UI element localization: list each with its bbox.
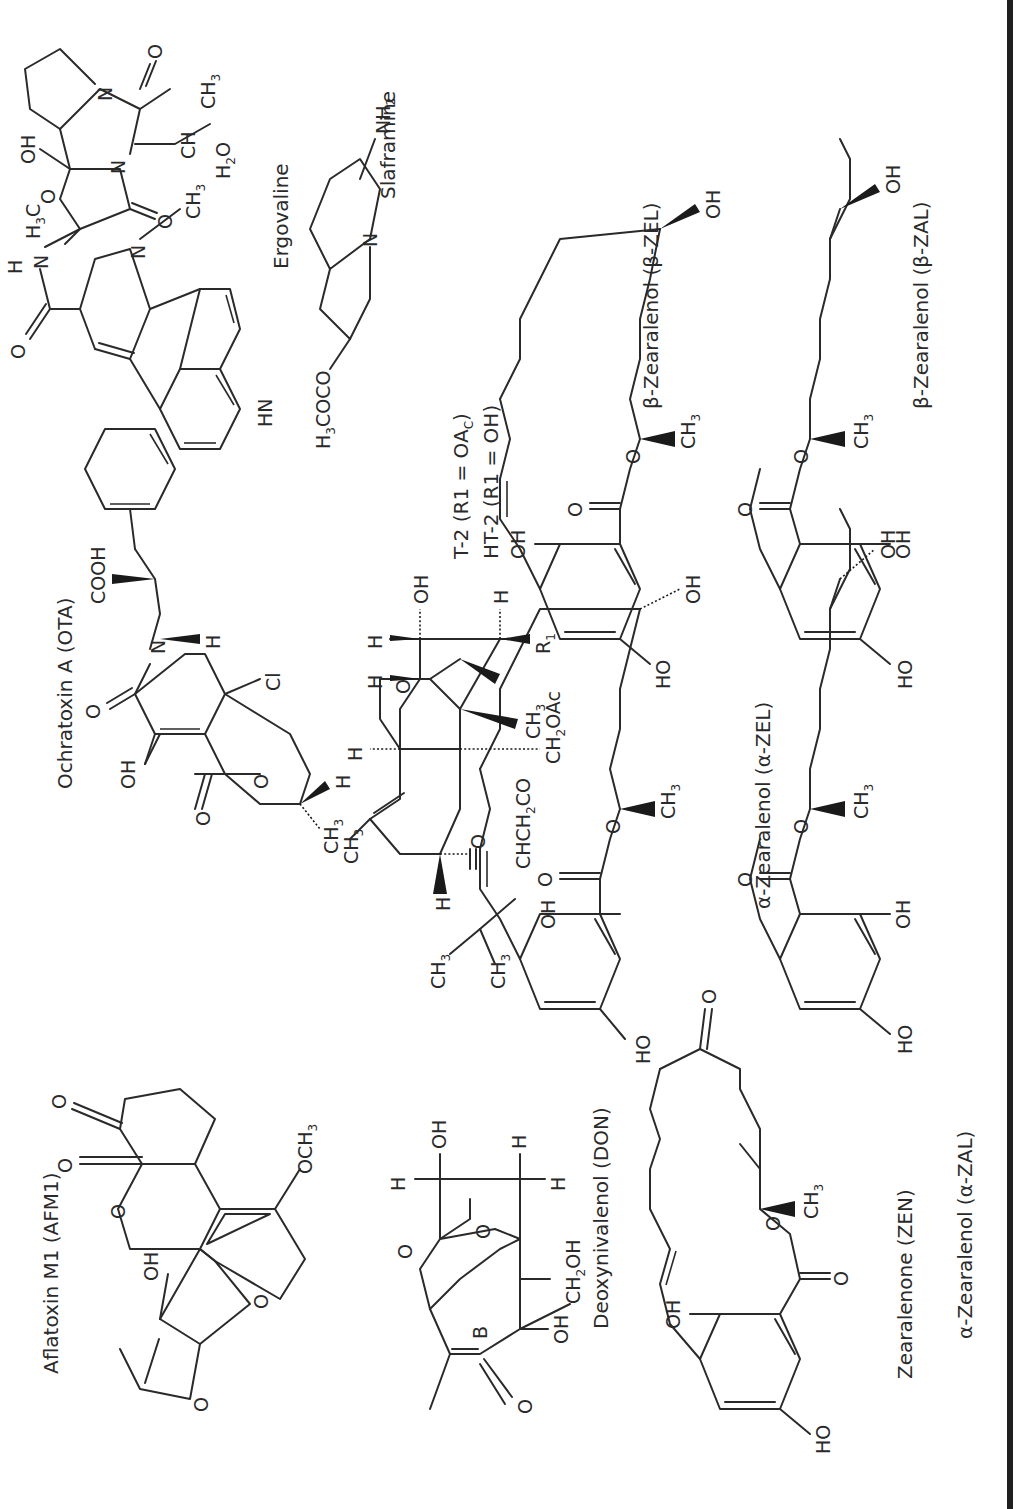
structures-canvas: Aflatoxin M1 (AFM1) O OH O O O O OCH3 De… (0, 0, 1025, 1509)
svg-text:H: H (364, 635, 386, 649)
svg-text:H: H (490, 590, 512, 604)
svg-text:OCH3: OCH3 (294, 1124, 320, 1174)
don-label: Deoxynivalenol (DON) (589, 1107, 613, 1329)
svg-text:B: B (469, 1326, 491, 1339)
svg-text:OH: OH (892, 900, 914, 929)
svg-text:OH: OH (117, 760, 139, 789)
ergovaline-label: Ergovaline (269, 163, 293, 269)
svg-text:OH: OH (428, 1120, 450, 1149)
svg-text:O: O (830, 1271, 852, 1286)
svg-text:CH3: CH3 (340, 829, 366, 864)
svg-text:HO: HO (632, 1035, 654, 1064)
deoxynivalenol-structure: Deoxynivalenol (DON) B O OH CH2OH O O H … (387, 1107, 613, 1414)
svg-text:CH2OH: CH2OH (562, 1240, 588, 1304)
svg-text:O: O (144, 44, 166, 59)
svg-text:O: O (48, 1094, 70, 1109)
ochratoxin-a-structure: Ochratoxin A (OTA) COOH N H O OH O O CH3… (53, 429, 354, 854)
svg-text:O: O (622, 449, 644, 464)
svg-text:O: O (82, 704, 104, 719)
svg-text:CH3: CH3 (427, 954, 453, 989)
svg-text:O: O (790, 449, 812, 464)
alpha-zal-label: α-Zearalenol (α-ZAL) (953, 1131, 977, 1339)
aflatoxin-m1-structure: Aflatoxin M1 (AFM1) O OH O O O O OCH3 (39, 1089, 320, 1412)
figure-frame: Aflatoxin M1 (AFM1) O OH O O O O OCH3 De… (0, 0, 1025, 1509)
svg-text:N: N (147, 640, 169, 654)
ergovaline-structure: Ergovaline HN N CH3 O N H O H3C O N (4, 44, 293, 449)
svg-text:O: O (250, 1294, 272, 1309)
svg-text:CH3: CH3 (657, 784, 683, 819)
svg-text:O: O (190, 1397, 212, 1412)
svg-text:O: O (514, 1399, 536, 1414)
svg-text:O: O (54, 1158, 76, 1173)
svg-text:CH3: CH3 (677, 414, 703, 449)
svg-text:OH: OH (550, 1315, 572, 1344)
svg-text:O: O (250, 774, 272, 789)
beta-zal-structure: β-Zearalenol (β-ZAL) HO OH O O CH3 OH (734, 139, 933, 689)
svg-text:H: H (202, 635, 224, 649)
svg-text:H3C: H3C (22, 204, 48, 239)
svg-text:HO: HO (894, 660, 916, 689)
svg-text:O: O (37, 189, 59, 204)
svg-text:N: N (127, 245, 149, 259)
svg-text:O: O (154, 214, 176, 229)
svg-text:O: O (734, 502, 756, 517)
svg-text:O: O (392, 679, 414, 694)
svg-text:O: O (192, 811, 214, 826)
svg-text:O: O (107, 1204, 129, 1219)
svg-text:CHCH2CO: CHCH2CO (512, 778, 538, 869)
svg-text:CH: CH (177, 131, 199, 159)
svg-text:HO: HO (652, 660, 674, 689)
svg-text:O: O (467, 834, 489, 849)
svg-text:CH2OAc: CH2OAc (542, 691, 568, 764)
svg-text:OH: OH (682, 575, 704, 604)
svg-text:OH: OH (882, 165, 904, 194)
beta-zel-structure: β-Zearalenol (β-ZEL) HO OH O O CH3 OH (500, 190, 724, 689)
svg-text:CH3: CH3 (850, 414, 876, 449)
alpha-zal-structure: α-Zearalenol (α-ZAL) HO OH O O CH3 OH (734, 509, 977, 1339)
svg-text:H: H (387, 1177, 409, 1191)
rotated-page: Aflatoxin M1 (AFM1) O OH O O O O OCH3 De… (0, 0, 1025, 1509)
svg-text:H: H (332, 775, 354, 789)
svg-text:Cl: Cl (262, 672, 284, 691)
svg-text:OH: OH (702, 190, 724, 219)
svg-text:N: N (359, 233, 381, 247)
beta-zal-label: β-Zearalenol (β-ZAL) (909, 201, 933, 409)
svg-text:H3COCO: H3COCO (312, 371, 338, 449)
svg-text:O: O (602, 819, 624, 834)
svg-text:HO: HO (812, 1425, 834, 1454)
svg-text:CH3: CH3 (197, 74, 223, 109)
svg-text:O: O (472, 1224, 494, 1239)
ochratoxin-a-label: Ochratoxin A (OTA) (53, 597, 77, 789)
svg-text:O: O (534, 872, 556, 887)
t2-label: T-2 (R1 = OAC) (449, 413, 476, 560)
svg-text:O: O (7, 344, 29, 359)
svg-text:OH: OH (140, 1252, 162, 1281)
svg-text:N: N (107, 160, 129, 174)
svg-text:O: O (698, 989, 720, 1004)
svg-text:N: N (94, 87, 116, 101)
svg-text:HN: HN (254, 399, 276, 428)
svg-text:O: O (564, 502, 586, 517)
svg-text:H: H (344, 747, 366, 761)
svg-text:H: H (547, 1177, 569, 1191)
svg-text:H: H (432, 897, 454, 911)
svg-text:N: N (30, 255, 52, 269)
aflatoxin-m1-label: Aflatoxin M1 (AFM1) (39, 1172, 63, 1374)
svg-text:O: O (394, 1244, 416, 1259)
t2-toxin-structure: T-2 (R1 = OAC) HT-2 (R1 = OH) CH3 H O CH… (340, 405, 568, 989)
svg-text:OH: OH (410, 575, 432, 604)
svg-text:OH: OH (17, 135, 39, 164)
svg-text:H: H (364, 675, 386, 689)
svg-text:OH: OH (892, 530, 914, 559)
svg-text:O: O (790, 819, 812, 834)
svg-text:CH3: CH3 (487, 954, 513, 989)
svg-text:H: H (4, 260, 26, 274)
svg-text:R1: R1 (532, 633, 558, 654)
svg-text:H: H (508, 1135, 530, 1149)
slaframine-structure: Slaframine N H3COCO NH2 (310, 91, 400, 449)
zen-label: Zearalenone (ZEN) (893, 1189, 917, 1379)
svg-text:CH3: CH3 (182, 184, 208, 219)
svg-text:COOH: COOH (87, 547, 109, 604)
svg-text:OH: OH (537, 900, 559, 929)
svg-text:CH3: CH3 (800, 1184, 826, 1219)
